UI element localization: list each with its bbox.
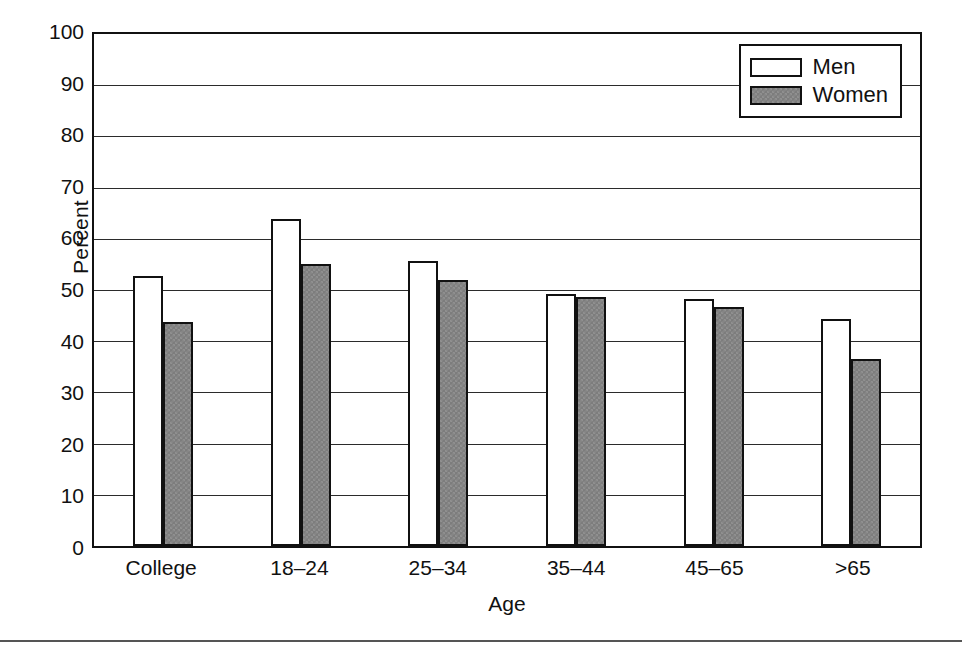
x-tick-label: 35–44 [507,556,645,580]
plot-inner: Men Women [94,34,920,546]
y-tick-label: 40 [61,330,84,354]
y-tick-label: 90 [61,72,84,96]
bar-men-College [133,276,163,546]
legend-label-women: Women [813,82,888,108]
y-tick-label: 80 [61,123,84,147]
legend-swatch-women-icon [750,86,802,105]
bar-women-College [163,322,193,546]
bar-women-3544 [576,297,606,546]
bar-women-65 [851,359,881,546]
y-tick-label: 10 [61,484,84,508]
y-tick-label: 60 [61,226,84,250]
bar-men-65 [821,319,851,546]
y-tick-label: 20 [61,433,84,457]
bar-group [369,34,507,546]
x-tick-label: 45–65 [645,556,783,580]
legend-label-men: Men [813,54,856,80]
x-tick-label: College [92,556,230,580]
bar-men-1824 [271,219,301,546]
bar-group [94,34,232,546]
x-tick-label: 18–24 [230,556,368,580]
y-tick-label: 30 [61,381,84,405]
y-tick-label: 0 [72,536,84,560]
bar-men-2534 [408,261,438,546]
x-axis-tick-labels: College18–2425–3435–4445–65>65 [92,556,922,580]
legend-item-men: Men [750,53,888,81]
y-tick-label: 70 [61,175,84,199]
x-tick-label: 25–34 [369,556,507,580]
bar-group [232,34,370,546]
chart-figure: Percent 100 90 80 70 60 50 40 30 20 10 0… [0,0,962,654]
x-axis-title: Age [92,592,922,616]
y-tick-label: 100 [49,20,84,44]
bar-women-1824 [301,264,331,546]
y-tick-label: 50 [61,278,84,302]
legend-item-women: Women [750,81,888,109]
legend-swatch-men-icon [750,58,802,77]
x-tick-label: >65 [784,556,922,580]
bar-group [507,34,645,546]
plot-area: Men Women [92,32,922,548]
legend: Men Women [739,44,902,118]
bar-men-4565 [684,299,714,546]
bottom-divider [0,640,962,642]
bar-men-3544 [546,294,576,546]
bar-women-4565 [714,307,744,546]
bar-women-2534 [438,280,468,546]
y-axis-tick-labels: 100 90 80 70 60 50 40 30 20 10 0 [24,32,84,548]
